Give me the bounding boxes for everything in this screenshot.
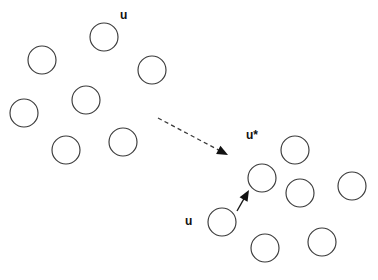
circle-left-4: [72, 86, 100, 114]
circle-right-4: [338, 172, 366, 200]
circle-u-star: [248, 164, 276, 192]
dashed-transition-arrow-head: [216, 146, 228, 155]
circle-right-6: [251, 234, 279, 262]
circle-left-7: [109, 128, 137, 156]
arrows-layer: [158, 118, 249, 211]
circle-right-7: [308, 228, 336, 256]
solid-update-arrow-head: [240, 190, 249, 202]
circle-left-2: [28, 46, 56, 74]
left-cluster: [10, 23, 166, 164]
circle-left-3: [138, 56, 166, 84]
dashed-transition-arrow: [158, 118, 228, 155]
label-u-star: u*: [246, 129, 258, 141]
circle-right-2: [281, 136, 309, 164]
label-u-top: u: [120, 9, 127, 21]
label-u-bottom: u: [185, 215, 192, 227]
right-cluster: [208, 136, 366, 262]
circle-left-6: [52, 136, 80, 164]
circle-right-3: [286, 179, 314, 207]
solid-update-arrow: [237, 190, 249, 211]
figure-svg: [0, 0, 378, 280]
diagram-canvas: uu*u: [0, 0, 378, 280]
circle-left-5: [10, 99, 38, 127]
circle-u-current: [208, 208, 236, 236]
dashed-transition-arrow-line: [158, 118, 221, 151]
circle-left-1: [90, 23, 118, 51]
